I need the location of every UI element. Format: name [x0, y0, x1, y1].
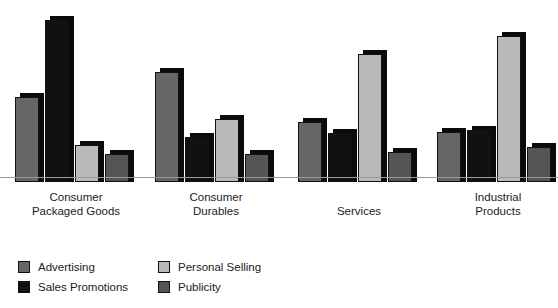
bar-face — [45, 20, 69, 182]
bar-face — [15, 97, 39, 182]
legend-label-publicity: Publicity — [178, 281, 221, 294]
legend-swatch-advertising-icon — [18, 261, 30, 273]
legend-swatch-sales-promotions-icon — [18, 281, 30, 293]
x-axis-baseline — [0, 177, 558, 178]
legend-swatch-personal-selling-icon — [158, 261, 170, 273]
bar-face — [467, 130, 491, 182]
bar-chart-figure: Consumer Packaged Goods Consumer Durable… — [0, 0, 558, 308]
legend-item-sales-promotions[interactable]: Sales Promotions — [18, 280, 128, 294]
bar-group-consumer-durables — [155, 0, 275, 182]
legend-swatch-publicity-icon — [158, 281, 170, 293]
legend-label-advertising: Advertising — [38, 261, 95, 274]
category-label-consumer-durables: Consumer Durables — [150, 190, 282, 218]
legend-item-publicity[interactable]: Publicity — [158, 280, 221, 294]
legend-item-personal-selling[interactable]: Personal Selling — [158, 260, 261, 274]
legend-label-personal-selling: Personal Selling — [178, 261, 261, 274]
chart-plot-area — [0, 0, 558, 182]
chart-legend: Advertising Sales Promotions Personal Se… — [18, 260, 418, 300]
bar-face — [185, 137, 209, 182]
bar-face — [155, 72, 179, 182]
legend-item-advertising[interactable]: Advertising — [18, 260, 95, 274]
bar-group-consumer-packaged-goods — [15, 0, 135, 182]
category-label-services: Services — [293, 204, 425, 218]
bar-face — [437, 132, 461, 182]
category-label-industrial-products: Industrial Products — [432, 190, 558, 218]
bar-face — [215, 119, 239, 182]
x-axis-category-labels: Consumer Packaged Goods Consumer Durable… — [0, 186, 558, 232]
bar-face — [298, 122, 322, 182]
bar-face — [497, 36, 521, 182]
bar-group-industrial-products — [437, 0, 557, 182]
category-label-consumer-packaged-goods: Consumer Packaged Goods — [10, 190, 142, 218]
legend-label-sales-promotions: Sales Promotions — [38, 281, 128, 294]
bar-face — [328, 133, 352, 182]
bar-face — [358, 54, 382, 182]
bar-group-services — [298, 0, 418, 182]
